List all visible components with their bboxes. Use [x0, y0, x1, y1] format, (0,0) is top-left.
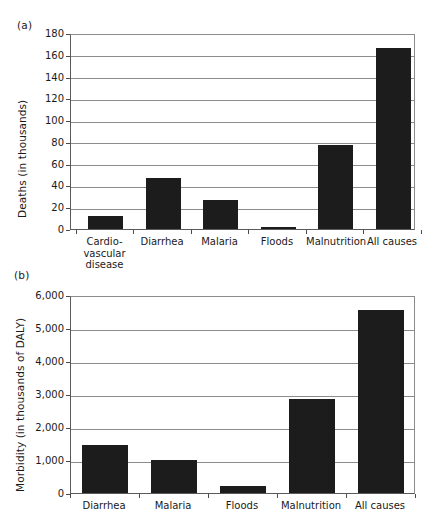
bar	[88, 216, 123, 229]
y-axis-tick-mark	[66, 428, 70, 429]
x-axis-tick-mark	[306, 230, 307, 234]
panel-b-plot-area	[70, 296, 415, 494]
x-axis-tick-label: Cardio- vascular disease	[76, 236, 133, 271]
y-axis-tick-mark	[66, 121, 70, 122]
y-axis-tick-mark	[66, 78, 70, 79]
x-axis-tick-mark	[191, 230, 192, 234]
x-axis-tick-mark	[415, 494, 416, 498]
x-axis-tick-mark	[208, 494, 209, 498]
y-axis-tick-label: 2,000	[20, 423, 64, 433]
y-axis-tick-label: 140	[20, 73, 64, 83]
y-axis-tick-mark	[66, 461, 70, 462]
y-axis-tick-mark	[66, 99, 70, 100]
x-axis-tick-mark	[139, 494, 140, 498]
y-axis-tick-mark	[66, 186, 70, 187]
bar	[261, 227, 296, 229]
bar	[146, 178, 181, 229]
gridline	[71, 78, 414, 79]
y-axis-tick-mark	[66, 395, 70, 396]
y-axis-tick-label: 0	[20, 489, 64, 499]
x-axis-tick-label: Malnutrition	[277, 500, 346, 512]
y-axis-tick-label: 120	[20, 94, 64, 104]
gridline	[71, 100, 414, 101]
bar	[82, 445, 128, 493]
bar	[289, 399, 335, 493]
bar	[203, 200, 238, 229]
y-axis-tick-label: 60	[20, 160, 64, 170]
x-axis-tick-label: All causes	[346, 500, 415, 512]
y-axis-tick-label: 100	[20, 116, 64, 126]
y-axis-tick-label: 6,000	[20, 291, 64, 301]
bar	[151, 460, 197, 493]
bar	[358, 310, 404, 493]
x-axis-tick-mark	[363, 230, 364, 234]
y-axis-tick-label: 20	[20, 203, 64, 213]
x-axis-tick-mark	[277, 494, 278, 498]
y-axis-tick-mark	[66, 34, 70, 35]
gridline	[71, 187, 414, 188]
gridline	[71, 209, 414, 210]
y-axis-tick-mark	[66, 329, 70, 330]
y-axis-tick-mark	[66, 362, 70, 363]
y-axis-tick-label: 80	[20, 138, 64, 148]
x-axis-tick-label: Diarrhea	[134, 236, 191, 248]
gridline	[71, 165, 414, 166]
x-axis-tick-mark	[76, 230, 77, 234]
x-axis-tick-label: Floods	[208, 500, 277, 512]
bar	[220, 486, 266, 493]
y-axis-tick-mark	[66, 165, 70, 166]
y-axis-tick-mark	[66, 230, 70, 231]
y-axis-tick-label: 180	[20, 29, 64, 39]
x-axis-tick-mark	[346, 494, 347, 498]
gridline	[71, 56, 414, 57]
y-axis-tick-label: 160	[20, 51, 64, 61]
x-axis-tick-mark	[133, 230, 134, 234]
y-axis-tick-label: 4,000	[20, 357, 64, 367]
y-axis-tick-mark	[66, 296, 70, 297]
x-axis-tick-label: Floods	[249, 236, 306, 248]
bar	[376, 48, 411, 229]
x-axis-tick-label: Malaria	[191, 236, 248, 248]
y-axis-tick-label: 5,000	[20, 324, 64, 334]
x-axis-tick-label: All causes	[364, 236, 421, 248]
x-axis-tick-label: Malaria	[139, 500, 208, 512]
y-axis-tick-mark	[66, 208, 70, 209]
gridline	[71, 122, 414, 123]
y-axis-tick-label: 3,000	[20, 390, 64, 400]
y-axis-tick-label: 1,000	[20, 456, 64, 466]
figure-container: (a) Deaths (in thousands) (b) Morbidity …	[0, 0, 431, 525]
y-axis-tick-mark	[66, 143, 70, 144]
y-axis-tick-label: 0	[20, 225, 64, 235]
y-axis-tick-label: 40	[20, 181, 64, 191]
y-axis-tick-mark	[66, 56, 70, 57]
panel-a-plot-area	[70, 34, 415, 230]
x-axis-tick-mark	[70, 494, 71, 498]
x-axis-tick-label: Diarrhea	[70, 500, 139, 512]
gridline	[71, 143, 414, 144]
x-axis-tick-mark	[248, 230, 249, 234]
x-axis-tick-mark	[421, 230, 422, 234]
x-axis-tick-label: Malnutrition	[306, 236, 363, 248]
panel-b-letter: (b)	[14, 269, 29, 281]
bar	[318, 145, 353, 229]
